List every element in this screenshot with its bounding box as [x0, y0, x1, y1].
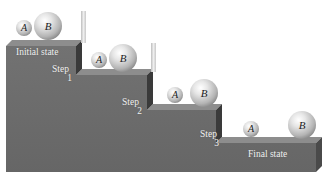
- ball-a-label: A: [169, 89, 181, 100]
- ball-b-label: B: [196, 87, 212, 99]
- energy-staircase-diagram: A B A B A B A B Initial state Final stat…: [0, 0, 331, 178]
- step-3-number: 3: [211, 138, 219, 148]
- initial-state-label: Initial state: [16, 47, 58, 57]
- ball-a-label: A: [18, 22, 30, 33]
- final-state-label: Final state: [248, 149, 287, 159]
- ball-a-label: A: [245, 123, 257, 134]
- step-2-number: 2: [134, 106, 142, 116]
- ball-b-label: B: [40, 20, 56, 32]
- step-1-number: 1: [64, 73, 72, 83]
- barrier-1: [81, 11, 86, 43]
- ball-a-label: A: [93, 54, 105, 65]
- barrier-2: [151, 43, 156, 72]
- ball-b-label: B: [115, 52, 131, 64]
- ball-b-label: B: [294, 119, 310, 131]
